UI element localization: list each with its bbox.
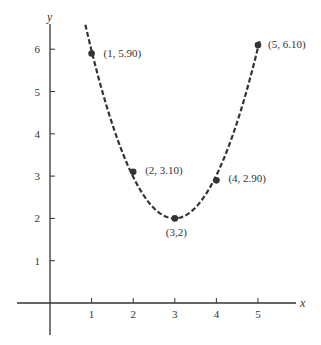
x-tick-label: 3 (172, 308, 178, 320)
chart: xy12345123456 (1, 5.90)(2, 3.10)(3,2)(4,… (0, 0, 321, 345)
y-tick-label: 6 (35, 43, 41, 55)
data-label: (3,2) (166, 226, 187, 239)
data-label: (1, 5.90) (104, 47, 142, 60)
data-point (172, 215, 179, 222)
data-label: (5, 6.10) (268, 38, 306, 51)
data-point (88, 50, 95, 57)
y-tick-label: 3 (35, 170, 41, 182)
data-label: (4, 2.90) (228, 172, 266, 185)
y-axis-label: y (46, 10, 53, 24)
y-tick-label: 4 (35, 128, 41, 140)
y-tick-label: 1 (35, 255, 41, 267)
data-point (255, 42, 262, 49)
x-tick-label: 5 (255, 308, 261, 320)
x-tick-label: 4 (214, 308, 220, 320)
data-label: (2, 3.10) (145, 164, 183, 177)
x-axis-label: x (299, 296, 306, 310)
points-layer: (1, 5.90)(2, 3.10)(3,2)(4, 2.90)(5, 6.10… (88, 38, 306, 239)
x-tick-label: 2 (130, 308, 136, 320)
x-tick-label: 1 (89, 308, 95, 320)
y-tick-label: 2 (35, 212, 41, 224)
data-point (130, 169, 137, 176)
data-point (213, 177, 220, 184)
y-tick-label: 5 (35, 86, 41, 98)
